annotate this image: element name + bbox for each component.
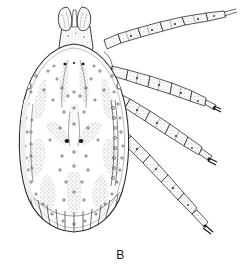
panel-label: B xyxy=(116,248,124,262)
patch-central-mid xyxy=(69,104,80,128)
hypostome xyxy=(72,10,77,27)
figure-panel: B xyxy=(0,0,241,270)
patch-central-posterior xyxy=(67,172,82,216)
tick-illustration xyxy=(0,0,241,270)
panel-caption: B xyxy=(0,248,241,262)
idiosoma xyxy=(19,44,128,233)
